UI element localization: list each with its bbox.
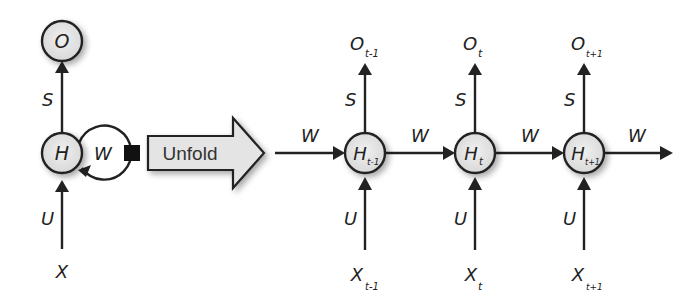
input-subscript: t+1 bbox=[586, 282, 603, 292]
output-label: O bbox=[463, 33, 477, 54]
weight-label-u: U bbox=[41, 208, 54, 229]
output-subscript: t bbox=[478, 47, 483, 60]
arrowhead-icon bbox=[577, 63, 591, 75]
output-label: O bbox=[571, 33, 585, 54]
edge-u-folded bbox=[55, 180, 69, 249]
arrowhead-icon bbox=[333, 146, 345, 160]
output-label: O bbox=[350, 33, 364, 54]
hidden-node-subscript: t+1 bbox=[585, 158, 600, 167]
folded-rnn: S O W H U X bbox=[41, 21, 140, 282]
weight-label-u: U bbox=[454, 208, 467, 229]
weight-label-s: S bbox=[455, 89, 466, 110]
input-label: X bbox=[464, 264, 478, 285]
time-step-t: S O t H t U X t bbox=[454, 33, 495, 293]
weight-label-w: W bbox=[94, 143, 113, 164]
rnn-unfold-diagram: S O W H U X Unfold bbox=[0, 0, 700, 303]
arrowhead-icon bbox=[358, 177, 372, 190]
weight-label-s: S bbox=[564, 89, 575, 110]
edge-w-1 bbox=[385, 146, 455, 160]
weight-label-w-1: W bbox=[411, 125, 430, 146]
arrowhead-icon bbox=[468, 177, 482, 190]
delay-square-icon bbox=[124, 145, 140, 161]
weight-label-w-in: W bbox=[301, 125, 320, 146]
weight-label-u: U bbox=[344, 208, 357, 229]
input-label-x: X bbox=[55, 261, 69, 282]
arrowhead-icon bbox=[577, 177, 591, 190]
input-label: X bbox=[350, 264, 364, 285]
hidden-node-label: H bbox=[464, 143, 478, 164]
output-node-label: O bbox=[55, 30, 70, 52]
unfold-label: Unfold bbox=[163, 143, 218, 164]
edge-s-folded bbox=[55, 61, 69, 133]
hidden-node-label: H bbox=[353, 143, 367, 164]
hidden-node-label: H bbox=[55, 142, 69, 164]
weight-label-s: S bbox=[345, 89, 356, 110]
output-subscript: t-1 bbox=[365, 48, 379, 59]
arrowhead-icon bbox=[358, 63, 372, 75]
input-label: X bbox=[571, 264, 585, 285]
weight-label-s: S bbox=[42, 89, 53, 110]
output-subscript: t+1 bbox=[586, 49, 603, 59]
unfolded-rnn: W W W W S O t-1 H t-1 bbox=[275, 33, 673, 293]
arrowhead-icon bbox=[660, 146, 673, 160]
hidden-node-subscript: t-1 bbox=[367, 157, 380, 167]
edge-w-2 bbox=[495, 146, 564, 160]
arrowhead-icon bbox=[55, 180, 69, 192]
arrowhead-icon bbox=[552, 146, 564, 160]
time-step-t-minus-1: S O t-1 H t-1 U X t-1 bbox=[344, 33, 385, 292]
input-subscript: t-1 bbox=[365, 281, 379, 292]
weight-label-w-2: W bbox=[521, 125, 540, 146]
arrowhead-icon bbox=[443, 146, 455, 160]
hidden-node-label: H bbox=[571, 143, 585, 164]
edge-w-out bbox=[604, 146, 673, 160]
edge-w-in bbox=[275, 146, 345, 160]
arrowhead-icon bbox=[55, 61, 69, 73]
arrowhead-icon bbox=[468, 63, 482, 75]
input-subscript: t bbox=[478, 280, 483, 293]
weight-label-u: U bbox=[563, 208, 576, 229]
weight-label-w-out: W bbox=[628, 125, 647, 146]
time-step-t-plus-1: S O t+1 H t+1 U X t+1 bbox=[563, 33, 604, 292]
